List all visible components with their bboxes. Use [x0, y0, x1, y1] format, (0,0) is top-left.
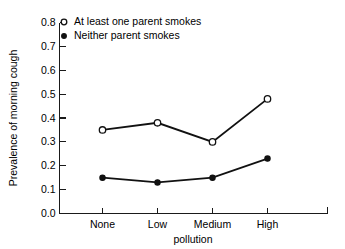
data-point-filled	[210, 175, 215, 180]
y-tick-label: 0.1	[41, 183, 56, 195]
data-point-filled	[155, 180, 160, 185]
x-axis-title: pollution	[173, 233, 212, 245]
legend-marker-open-circle-icon	[61, 19, 67, 25]
x-tick-label: None	[90, 218, 115, 230]
chart-figure: 0.00.10.20.30.40.50.60.70.8 NoneLowMediu…	[0, 0, 345, 249]
legend-label: At least one parent smokes	[74, 15, 201, 27]
line-chart: 0.00.10.20.30.40.50.60.70.8 NoneLowMediu…	[0, 0, 345, 249]
legend-label: Neither parent smokes	[74, 29, 180, 41]
y-axis-title: Prevalence of morning cough	[7, 50, 19, 187]
legend-marker-filled-circle-icon	[62, 34, 67, 39]
y-tick-label: 0.5	[41, 88, 56, 100]
x-tick-label: Medium	[194, 218, 232, 230]
data-point-filled	[265, 156, 270, 161]
y-tick-label: 0.3	[41, 135, 56, 147]
data-point-filled	[100, 175, 105, 180]
x-tick-label: High	[257, 218, 279, 230]
data-point-open	[264, 96, 270, 102]
y-tick-label: 0.8	[41, 16, 56, 28]
y-tick-label: 0.6	[41, 64, 56, 76]
y-tick-label: 0.4	[41, 112, 56, 124]
y-tick-label: 0.0	[41, 207, 56, 219]
data-point-open	[154, 120, 160, 126]
data-point-open	[209, 139, 215, 145]
y-tick-label: 0.7	[41, 40, 56, 52]
y-axis-tick-labels: 0.00.10.20.30.40.50.60.70.8	[41, 16, 56, 219]
y-tick-label: 0.2	[41, 159, 56, 171]
data-point-open	[99, 127, 105, 133]
x-tick-label: Low	[148, 218, 168, 230]
